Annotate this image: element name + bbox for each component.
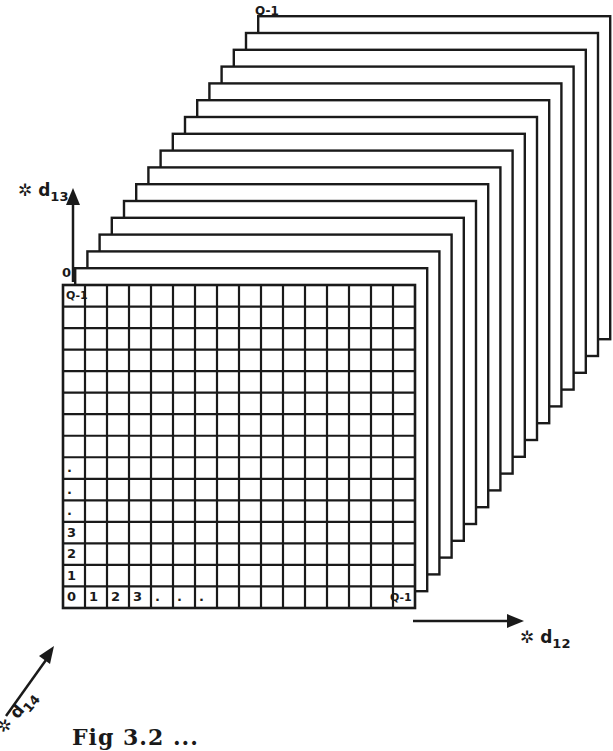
asterisk-icon: ✲ [18, 180, 32, 200]
column-label: . [199, 589, 204, 604]
d13-axis-label: ✲ d13 [18, 180, 68, 204]
front-grid [63, 285, 415, 608]
column-label: 3 [133, 589, 142, 604]
front-bottom-right-label: Q-1 [390, 591, 412, 604]
asterisk-icon: ✲ [520, 627, 534, 647]
row-label: 0 [67, 589, 76, 604]
row-label: 1 [67, 568, 76, 583]
row-label: 2 [67, 546, 76, 561]
row-label: . [67, 503, 72, 518]
back-layer-label: Q-1 [255, 4, 279, 18]
row-label: . [67, 482, 72, 497]
d14-arrowhead-icon [39, 646, 54, 664]
figure-caption: Fig 3.2 ... [72, 724, 199, 750]
row-label: . [67, 460, 72, 475]
d12-arrowhead-icon [507, 614, 524, 628]
row-label: 3 [67, 525, 76, 540]
column-label: . [155, 589, 160, 604]
front-layer-index-label: 0 [62, 265, 71, 280]
column-label: 1 [89, 589, 98, 604]
column-label: . [177, 589, 182, 604]
column-label: 2 [111, 589, 120, 604]
d12-axis-label: ✲ d12 [520, 627, 570, 651]
front-top-left-label: Q-1 [66, 289, 88, 302]
